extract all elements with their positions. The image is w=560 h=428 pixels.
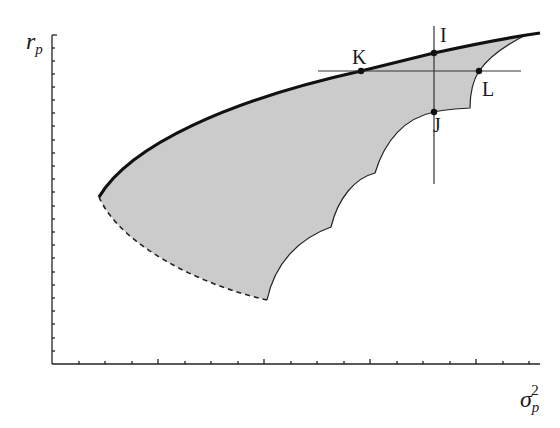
point-label-J: J: [433, 114, 441, 137]
y-axis: [52, 35, 57, 364]
x-axis-label: σp2: [520, 382, 539, 416]
x-axis: [52, 359, 540, 364]
point-label-K: K: [352, 46, 366, 69]
point-label-I: I: [440, 24, 447, 47]
y-axis-label: rp: [26, 28, 43, 58]
point-L: [476, 68, 482, 74]
point-label-L: L: [482, 78, 494, 101]
point-I: [431, 50, 437, 56]
efficient-frontier-diagram: [0, 0, 560, 428]
